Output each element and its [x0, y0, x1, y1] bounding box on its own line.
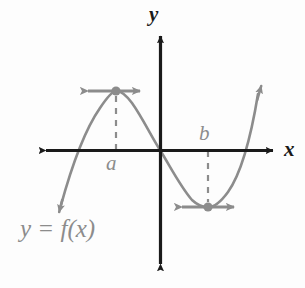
local-minimum-point — [203, 202, 212, 211]
graph-canvas — [0, 0, 305, 288]
local-maximum-point — [111, 86, 120, 95]
x-axis-label: x — [284, 139, 295, 160]
function-equation-label: y = f(x) — [20, 216, 95, 241]
function-graph-figure: y x a b y = f(x) — [0, 0, 305, 288]
local-min-x-label: b — [199, 123, 210, 144]
local-max-x-label: a — [106, 153, 117, 174]
y-axis-label: y — [149, 4, 158, 25]
curve-arrowhead-left — [59, 200, 62, 212]
